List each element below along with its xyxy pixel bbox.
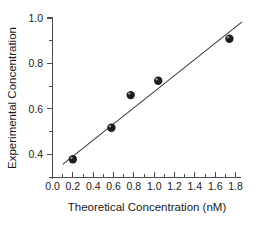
y-tick-labels: 1.0 0.8 0.6 0.4 <box>28 12 43 160</box>
data-point <box>225 35 233 43</box>
data-points <box>69 35 234 164</box>
y-tick-label: 0.8 <box>28 57 43 69</box>
trend-line <box>63 22 242 165</box>
data-point <box>154 77 162 85</box>
y-axis-title: Experimental Concentration <box>6 27 18 169</box>
x-tick-label: 0.2 <box>65 180 80 192</box>
x-tick-label: 1.0 <box>147 180 162 192</box>
x-minor-ticks <box>63 174 226 178</box>
x-tick-label: 0.0 <box>45 180 60 192</box>
data-point <box>69 155 77 163</box>
data-point <box>127 91 135 99</box>
x-tick-label: 1.2 <box>167 180 182 192</box>
y-tick-label: 0.4 <box>28 148 43 160</box>
x-tick-label: 0.4 <box>86 180 101 192</box>
x-tick-labels: 0.0 0.2 0.4 0.6 0.8 1.0 1.2 1.4 1.6 1.8 <box>45 180 243 192</box>
x-tick-label: 1.4 <box>187 180 202 192</box>
x-tick-label: 0.6 <box>106 180 121 192</box>
x-tick-label: 1.8 <box>228 180 243 192</box>
chart-figure: 1.0 0.8 0.6 0.4 0.0 0.2 0.4 0.6 0.8 1.0 … <box>0 0 261 225</box>
data-point <box>107 124 115 132</box>
x-axis-title: Theoretical Concentration (nM) <box>68 201 227 213</box>
x-tick-label: 0.8 <box>126 180 141 192</box>
y-tick-label: 0.6 <box>28 103 43 115</box>
x-tick-label: 1.6 <box>208 180 223 192</box>
scatter-plot: 1.0 0.8 0.6 0.4 0.0 0.2 0.4 0.6 0.8 1.0 … <box>0 0 261 225</box>
y-tick-label: 1.0 <box>28 12 43 24</box>
